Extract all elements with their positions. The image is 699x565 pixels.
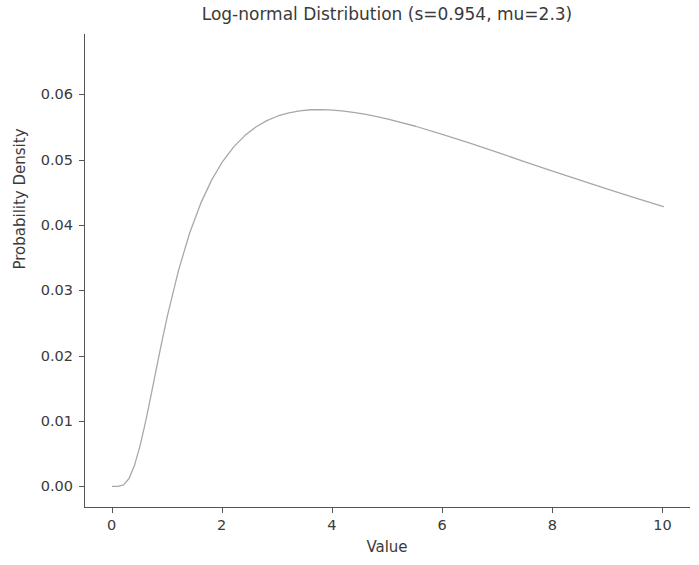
y-axis-label: Probability Density (11, 99, 29, 299)
x-tick-mark (222, 508, 223, 513)
x-tick-mark (552, 508, 553, 513)
plot-curve-svg (85, 34, 691, 508)
x-tick-mark (112, 508, 113, 513)
plot-area (84, 34, 690, 508)
x-tick-label: 4 (302, 517, 362, 533)
y-tick-label: 0.02 (11, 348, 73, 364)
chart-figure: Log-normal Distribution (s=0.954, mu=2.3… (0, 0, 699, 565)
chart-title: Log-normal Distribution (s=0.954, mu=2.3… (84, 4, 690, 24)
lognormal-curve (113, 110, 664, 487)
x-tick-label: 0 (82, 517, 142, 533)
x-tick-mark (442, 508, 443, 513)
x-axis-label: Value (84, 538, 690, 556)
x-tick-label: 10 (632, 517, 692, 533)
x-tick-label: 2 (192, 517, 252, 533)
x-tick-label: 6 (412, 517, 472, 533)
x-tick-mark (662, 508, 663, 513)
x-tick-mark (332, 508, 333, 513)
y-tick-label: 0.00 (11, 478, 73, 494)
y-tick-label: 0.01 (11, 413, 73, 429)
x-tick-label: 8 (522, 517, 582, 533)
